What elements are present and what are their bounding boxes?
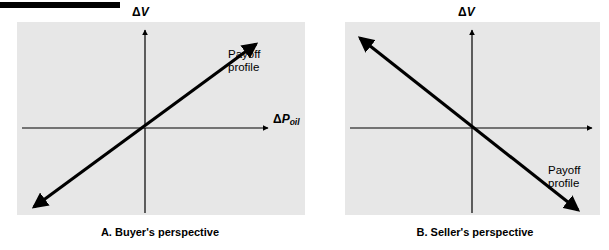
y-axis-label-panel-a: ΔV	[132, 6, 149, 19]
x-axis-label-panel-a: ΔPoil	[273, 113, 300, 128]
x-axis-subscript: oil	[290, 117, 300, 127]
x-axis-variable: P	[282, 112, 290, 126]
caption-panel-b: B. Seller's perspective	[375, 226, 575, 238]
payoff-label-line-1: Payoff	[228, 48, 260, 61]
header-rule-bar	[0, 2, 120, 8]
figure-container: ΔV ΔV ΔPoil Payoff profile Payoff profil…	[0, 0, 609, 250]
delta-symbol: Δ	[132, 5, 141, 19]
caption-panel-a: A. Buyer's perspective	[60, 226, 260, 238]
delta-symbol: Δ	[458, 5, 467, 19]
y-axis-label-panel-b: ΔV	[458, 6, 475, 19]
payoff-profile-label-panel-b: Payoff profile	[548, 164, 580, 190]
chart-panel-a	[17, 22, 305, 215]
payoff-label-line-1: Payoff	[548, 164, 580, 177]
y-axis-variable: V	[467, 5, 475, 19]
delta-symbol: Δ	[273, 112, 282, 126]
y-axis-variable: V	[141, 5, 149, 19]
payoff-label-line-2: profile	[548, 177, 580, 190]
payoff-profile-label-panel-a: Payoff profile	[228, 48, 260, 74]
payoff-label-line-2: profile	[228, 61, 260, 74]
